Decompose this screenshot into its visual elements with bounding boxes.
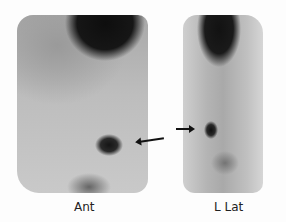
lateral-view-label: L Lat [214, 200, 243, 214]
left-lateral-view-image [183, 15, 263, 193]
anterior-view-image [17, 15, 148, 193]
arrow-right-icon [176, 128, 190, 130]
anterior-view-label: Ant [74, 200, 95, 214]
